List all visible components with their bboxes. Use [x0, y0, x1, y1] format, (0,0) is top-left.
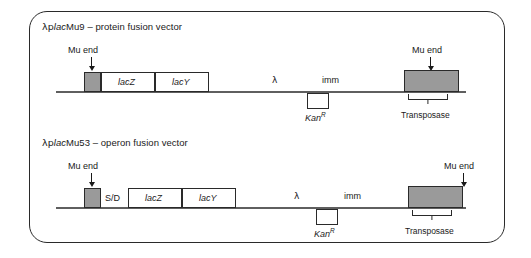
transposase-box-p2 — [408, 186, 463, 208]
transposase-label-p1: Transposase — [401, 111, 450, 120]
mu-end-label-right-p1: Mu end — [412, 46, 442, 55]
figure-root: λplacMu9 – protein fusion vector Mu end … — [0, 0, 531, 258]
kanr-box-p2 — [316, 209, 338, 225]
sd-label-p2: S/D — [105, 194, 120, 203]
mu-end-box-left-p1 — [84, 72, 101, 92]
lacy-label-p2: lacY — [199, 194, 217, 203]
mu-end-label-left-p2: Mu end — [68, 162, 98, 171]
panel-title-placmu9: λplacMu9 – protein fusion vector — [42, 22, 182, 32]
mu-end-arrow-right-p1 — [430, 57, 431, 71]
kanr-label-text-p2: Kan — [314, 229, 330, 239]
panel-title-placmu9-italic: lac — [54, 21, 66, 32]
kanr-box-p1 — [307, 93, 329, 109]
kanr-label-p1: KanR — [305, 112, 326, 123]
lacz-label-p2: lacZ — [145, 194, 162, 203]
panel-title-placmu9-suffix: Mu9 – protein fusion vector — [66, 21, 182, 32]
transposase-bracket-p2 — [412, 210, 452, 216]
lacy-label-p1: lacY — [172, 78, 190, 87]
imm-label-p2: imm — [344, 192, 361, 201]
mu-end-arrow-left-p2 — [91, 173, 92, 187]
panel-title-placmu53-prefix: λp — [42, 137, 54, 148]
panel-title-placmu53: λplacMu53 – operon fusion vector — [42, 138, 188, 148]
transposase-box-p1 — [404, 70, 459, 92]
mu-end-label-right-p2: Mu end — [444, 162, 474, 171]
kanr-label-sup-p1: R — [321, 111, 326, 118]
kanr-label-p2: KanR — [314, 228, 335, 239]
lacz-label-p1: lacZ — [118, 78, 135, 87]
panel-title-placmu53-italic: lac — [54, 137, 66, 148]
kanr-label-sup-p2: R — [330, 227, 335, 234]
mu-end-arrow-right-p2 — [463, 173, 464, 187]
transposase-label-p2: Transposase — [405, 227, 454, 236]
panel-title-placmu53-suffix: Mu53 – operon fusion vector — [66, 137, 188, 148]
mu-end-arrow-left-p1 — [91, 57, 92, 71]
panel-title-placmu9-prefix: λp — [42, 21, 54, 32]
imm-label-p1: imm — [322, 76, 339, 85]
backbone-line-p2 — [56, 207, 466, 209]
kanr-label-text-p1: Kan — [305, 113, 321, 123]
lambda-label-p1: λ — [272, 76, 277, 85]
mu-end-label-left-p1: Mu end — [68, 46, 98, 55]
transposase-bracket-p1 — [408, 94, 448, 100]
lambda-label-p2: λ — [294, 192, 299, 201]
mu-end-box-left-p2 — [84, 188, 101, 208]
